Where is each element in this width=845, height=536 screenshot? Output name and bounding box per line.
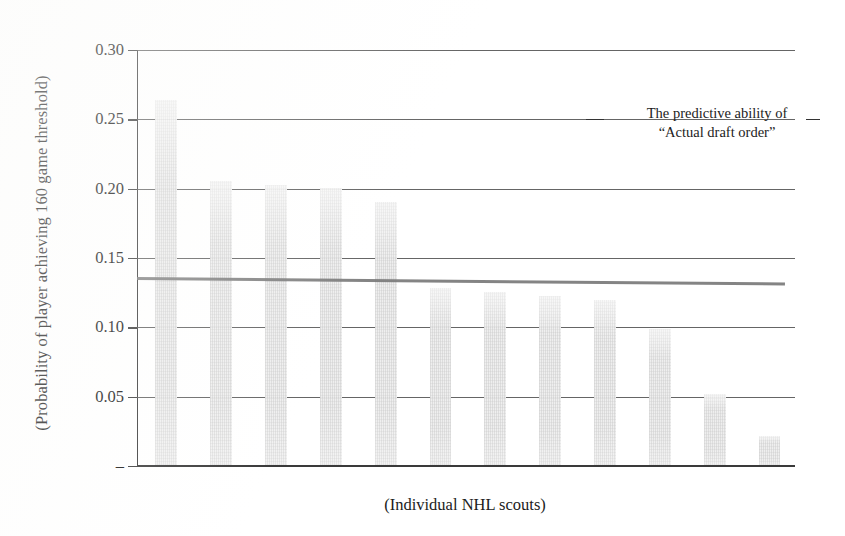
y-axis-tick (128, 189, 137, 190)
x-axis-label: (Individual NHL scouts) (130, 495, 800, 515)
bar (265, 185, 287, 465)
y-axis-tick (128, 50, 137, 51)
gridline (137, 258, 795, 259)
y-axis-tick-label: 0.05 (95, 387, 124, 407)
y-axis-tick-label: 0.30 (95, 40, 124, 60)
reference-line-annotation: The predictive ability of “Actual draft … (592, 104, 842, 141)
y-axis-tick (128, 327, 137, 328)
bar (155, 100, 177, 465)
bar (375, 202, 397, 466)
y-axis-tick-label: 0.10 (95, 317, 124, 337)
gridline (137, 397, 795, 398)
chart-figure: (Probability of player achieving 160 gam… (0, 0, 845, 536)
y-axis-tick (128, 397, 137, 398)
y-axis-tick (128, 119, 137, 120)
annotation-line-2: “Actual draft order” (592, 123, 842, 142)
y-axis-tick-label: – (116, 456, 124, 476)
gridline (137, 327, 795, 328)
bar (320, 188, 342, 465)
bar (759, 436, 781, 465)
annotation-line-1: The predictive ability of (592, 104, 842, 123)
reference-trendline (137, 277, 785, 285)
gridline (137, 189, 795, 190)
bar (484, 292, 506, 465)
y-axis-tick (128, 258, 137, 259)
y-axis-label: (Probability of player achieving 160 gam… (32, 43, 52, 463)
bar (210, 181, 232, 465)
bar (594, 300, 616, 465)
plot-top-border (137, 50, 795, 51)
bar (430, 288, 452, 466)
y-axis-tick-label: 0.25 (95, 109, 124, 129)
x-axis-line (137, 465, 795, 467)
bar (539, 296, 561, 465)
bar (704, 394, 726, 465)
y-axis-tick-label: 0.20 (95, 179, 124, 199)
y-axis-tick (128, 466, 137, 467)
y-axis-tick-label: 0.15 (95, 248, 124, 268)
bar (649, 329, 671, 465)
